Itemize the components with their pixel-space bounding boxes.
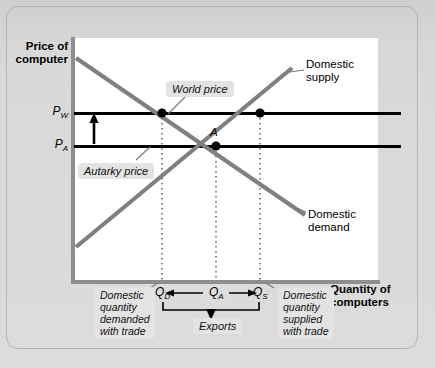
callout-world-price: World price (166, 81, 234, 97)
callout-autarky-price: Autarky price (78, 163, 154, 179)
callout-domestic-quantity-demanded: Domestic quantity demanded with trade (95, 287, 155, 339)
quantity-tick-qa-subscript: A (218, 292, 223, 301)
point-marker-qs (255, 108, 264, 117)
leader-line-world-price (168, 96, 186, 114)
equilibrium-point-label: A (210, 126, 218, 138)
quantity-tick-qa: QA (209, 285, 224, 301)
economics-figure: Price of computer Quantity of computers … (0, 0, 435, 368)
quantity-tick-qs-subscript: S (262, 292, 267, 301)
leader-line-autarky-price (136, 147, 150, 160)
curve-label-domestic-demand: Domestic demand (308, 208, 356, 234)
quantity-tick-qa-letter: Q (209, 285, 218, 299)
callout-domestic-quantity-supplied: Domestic quantity supplied with trade (278, 287, 334, 339)
point-marker-a (211, 141, 220, 150)
quantity-tick-qd-subscript: D (164, 292, 170, 301)
price-increase-arrow (89, 113, 98, 144)
point-marker-qd (157, 108, 166, 117)
quantity-tick-qd-letter: Q (155, 285, 164, 299)
quantity-tick-qs-letter: Q (253, 285, 262, 299)
quantity-tick-qd: QD (155, 285, 170, 301)
curve-label-domestic-supply: Domestic supply (306, 58, 354, 84)
quantity-tick-qs: QS (253, 285, 268, 301)
curves-layer (0, 0, 435, 368)
callout-exports: Exports (193, 318, 242, 334)
